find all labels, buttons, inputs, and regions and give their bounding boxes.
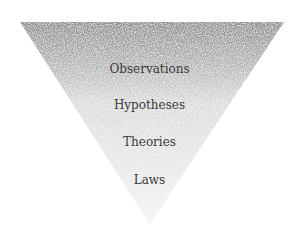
level-observations: Observations — [0, 62, 299, 76]
level-laws: Laws — [0, 173, 299, 187]
level-hypotheses: Hypotheses — [0, 98, 299, 112]
level-theories: Theories — [0, 135, 299, 149]
inverted-triangle — [0, 0, 299, 228]
